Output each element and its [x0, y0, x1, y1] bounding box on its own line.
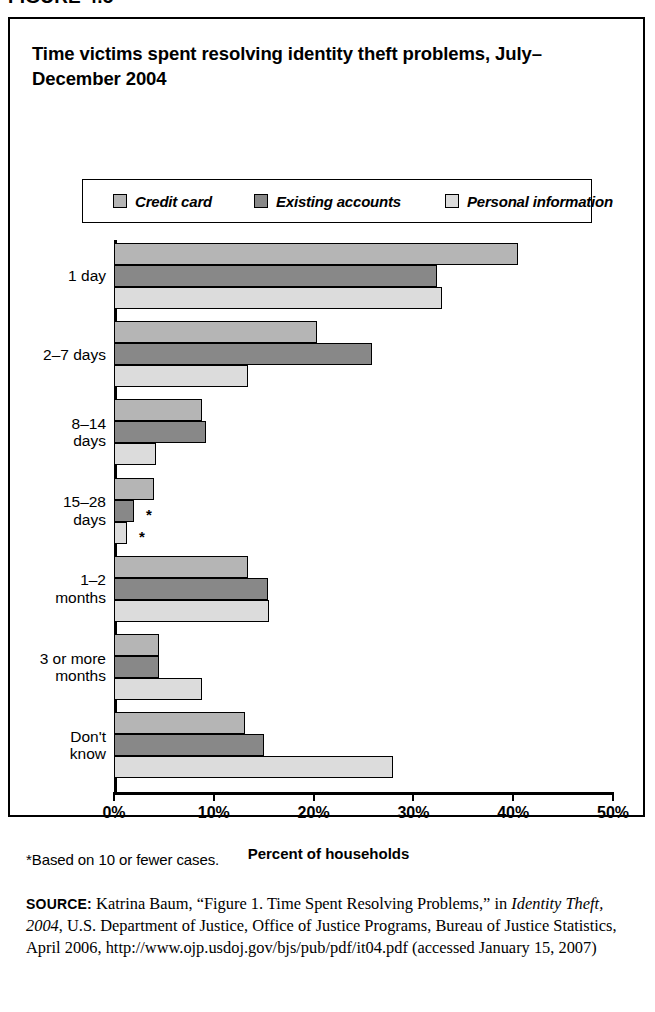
- chart-title: Time victims spent resolving identity th…: [32, 42, 622, 92]
- bar: [114, 734, 264, 756]
- x-axis-line: [114, 792, 613, 795]
- y-axis-line: [114, 240, 117, 792]
- bar: [114, 500, 134, 522]
- footnote-asterisk: *: [146, 507, 152, 522]
- bar: [114, 365, 248, 387]
- bar: [114, 243, 518, 265]
- source-text-part2: , U.S. Department of Justice, Office of …: [26, 916, 617, 957]
- legend-swatch-credit-card: [113, 194, 127, 208]
- bar: [114, 522, 127, 544]
- bar: [114, 399, 202, 421]
- x-axis-tick: [213, 792, 215, 801]
- bar: [114, 478, 154, 500]
- bar: [114, 287, 442, 309]
- x-axis-tick: [113, 792, 115, 801]
- category-label: Don't know: [10, 728, 106, 763]
- category-label: 15–28 days: [10, 493, 106, 528]
- legend-label-personal-information: Personal information: [467, 193, 613, 210]
- category-label: 3 or more months: [10, 650, 106, 685]
- bar: [114, 712, 245, 734]
- bar: [114, 600, 269, 622]
- footnote-asterisk: *: [139, 529, 145, 544]
- x-axis-tick: [412, 792, 414, 801]
- x-axis-tick-label: 0%: [102, 804, 125, 822]
- legend-swatch-existing-accounts: [254, 194, 268, 208]
- footnote: *Based on 10 or fewer cases.: [26, 851, 219, 868]
- figure-box: Time victims spent resolving identity th…: [8, 17, 645, 817]
- x-axis-tick-label: 40%: [497, 804, 529, 822]
- x-axis-tick: [512, 792, 514, 801]
- legend-label-existing-accounts: Existing accounts: [276, 193, 401, 210]
- source-keyword: SOURCE:: [26, 896, 92, 912]
- bar: [114, 756, 393, 778]
- category-label: 1–2 months: [10, 571, 106, 606]
- bar: [114, 678, 202, 700]
- legend-swatch-personal-information: [445, 194, 459, 208]
- x-axis-tick-label: 50%: [597, 804, 629, 822]
- bar: [114, 634, 159, 656]
- bar: [114, 443, 156, 465]
- legend-item-existing-accounts: Existing accounts: [254, 180, 401, 222]
- bar: [114, 343, 372, 365]
- legend-label-credit-card: Credit card: [135, 193, 212, 210]
- x-axis-tick-label: 30%: [397, 804, 429, 822]
- figure-number: FIGURE 4.5: [8, 0, 113, 8]
- x-axis-tick: [612, 792, 614, 801]
- bar: [114, 265, 437, 287]
- category-label: 1 day: [10, 267, 106, 284]
- bar: [114, 656, 159, 678]
- legend-item-credit-card: Credit card: [113, 180, 212, 222]
- plot-area: 0%10%20%30%40%50%1 day2–7 days8–14 days1…: [10, 19, 647, 819]
- bar: [114, 421, 206, 443]
- x-axis-tick: [313, 792, 315, 801]
- chart-legend: Credit card Existing accounts Personal i…: [82, 179, 592, 223]
- source-text-part1: Katrina Baum, “Figure 1. Time Spent Reso…: [92, 894, 511, 913]
- category-label: 8–14 days: [10, 415, 106, 450]
- x-axis-tick-label: 10%: [198, 804, 230, 822]
- bar: [114, 578, 268, 600]
- category-label: 2–7 days: [10, 346, 106, 363]
- x-axis-tick-label: 20%: [298, 804, 330, 822]
- legend-item-personal-information: Personal information: [445, 180, 613, 222]
- bar: [114, 321, 317, 343]
- source-note: SOURCE: Katrina Baum, “Figure 1. Time Sp…: [26, 893, 626, 958]
- bar: [114, 556, 248, 578]
